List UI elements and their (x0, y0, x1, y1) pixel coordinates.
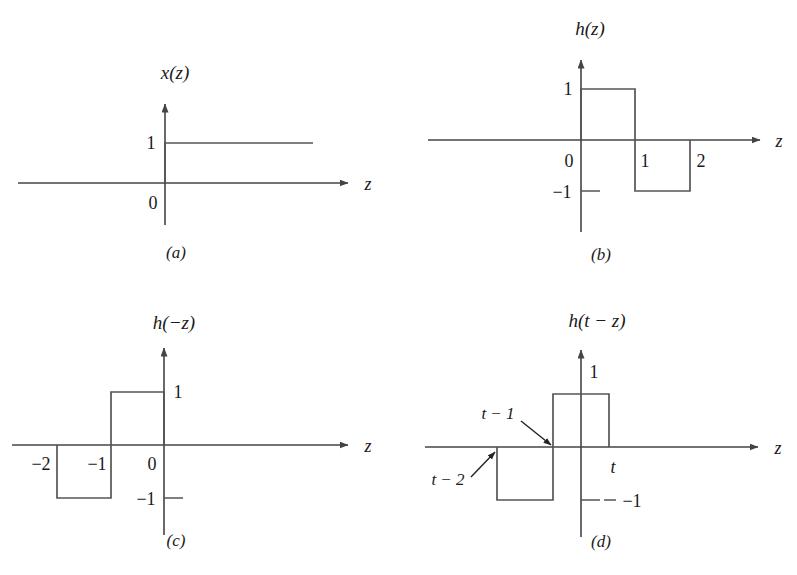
panel-b-x-tick-two-label: 2 (697, 152, 706, 170)
panel-a-y-tick-one-label: 1 (147, 134, 156, 152)
panel-b-y-tick-neg-one-label: −1 (552, 183, 571, 201)
panel-c-y-tick-one-label: 1 (174, 383, 183, 401)
panel-d-function-label: h(t − z) (568, 311, 625, 330)
panel-c-graphics (12, 348, 348, 535)
panel-d-annotation-t-minus-1: t − 1 (481, 405, 514, 422)
panel-b-graphics (428, 60, 760, 232)
panel-b-y-tick-one-label: 1 (564, 80, 573, 98)
panel-b-function-label: h(z) (575, 19, 605, 38)
panel-b-waveform (581, 89, 690, 191)
panel-c-x-tick-neg-one-label: −1 (87, 455, 106, 473)
panel-a-x-axis-label: z (364, 175, 371, 193)
figure-convolution-signals: x(z) z 1 0 (a) h(z) z 1 −1 0 1 2 (b) h(−… (0, 0, 797, 575)
panel-a-origin-label: 0 (149, 194, 158, 212)
panel-a-step-curve (165, 143, 313, 183)
panel-b-x-axis-label: z (775, 132, 782, 150)
panel-d-annotation-arrow-t-minus-2 (471, 452, 495, 477)
panel-d-y-tick-neg-one-label: −1 (622, 492, 641, 510)
panel-c-waveform (57, 392, 164, 498)
panel-d-x-axis-label: z (774, 439, 781, 457)
panel-b-caption: (b) (591, 246, 611, 263)
panel-d-caption: (d) (591, 533, 611, 550)
panel-a-graphics (18, 104, 348, 225)
panel-c-origin-label: 0 (148, 455, 157, 473)
panel-b-x-tick-one-label: 1 (641, 152, 650, 170)
panel-c-x-tick-neg-two-label: −2 (31, 455, 50, 473)
panel-c-function-label: h(−z) (153, 313, 195, 332)
panel-c-caption: (c) (167, 532, 186, 549)
panel-d-y-tick-one-label: 1 (590, 363, 599, 381)
panel-b-origin-label: 0 (565, 152, 574, 170)
panel-a-caption: (a) (166, 244, 186, 261)
panel-d-x-tick-t-label: t (610, 458, 615, 476)
panel-a-function-label: x(z) (161, 63, 189, 82)
panel-d-annotation-t-minus-2: t − 2 (431, 471, 464, 488)
panel-c-x-axis-label: z (364, 437, 371, 455)
panel-d-annotation-arrow-t-minus-1 (521, 421, 551, 445)
figure-vector-graphics (0, 0, 797, 575)
panel-c-y-tick-neg-one-label: −1 (136, 490, 155, 508)
